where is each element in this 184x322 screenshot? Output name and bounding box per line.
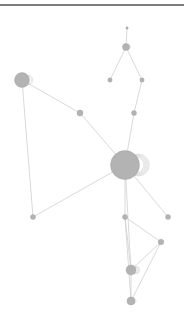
graph-node-n7[interactable] <box>132 111 137 116</box>
graph-node-n14[interactable] <box>127 297 135 305</box>
graph-node-n13[interactable] <box>126 265 136 275</box>
graph-node-n9[interactable] <box>31 215 36 220</box>
graph-edge <box>22 80 33 217</box>
graph-edge <box>110 47 126 80</box>
graph-node-n4[interactable] <box>140 78 144 82</box>
graph-node-n1[interactable] <box>126 27 128 29</box>
graph-edge <box>22 80 80 113</box>
graph-node-n10[interactable] <box>123 215 128 220</box>
graph-edge <box>33 165 125 217</box>
network-graph <box>0 0 184 322</box>
graph-node-n12[interactable] <box>158 239 164 245</box>
graph-edge <box>125 217 161 242</box>
graph-node-n3[interactable] <box>108 78 112 82</box>
graph-node-n6[interactable] <box>77 110 83 116</box>
graph-node-n11[interactable] <box>166 215 171 220</box>
graph-node-n8[interactable] <box>111 151 140 180</box>
graph-edge <box>134 80 142 113</box>
graph-edge <box>126 47 142 80</box>
graph-node-n5[interactable] <box>15 73 30 88</box>
graph-node-n2[interactable] <box>123 44 130 51</box>
